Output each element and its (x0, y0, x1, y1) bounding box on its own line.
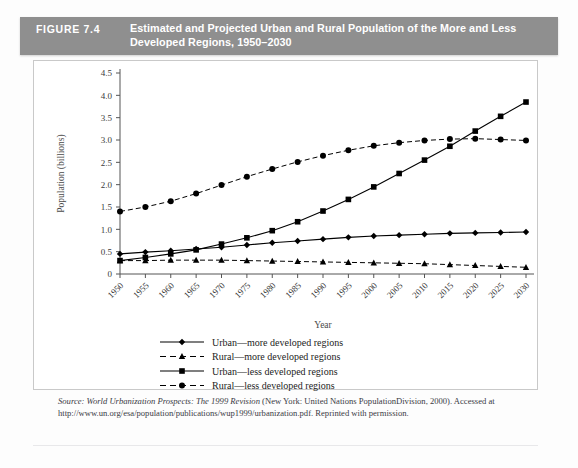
marker-diamond (421, 231, 427, 237)
marker-diamond (244, 242, 250, 248)
marker-square (269, 228, 275, 234)
marker-square (179, 368, 185, 374)
y-tick-label: 0 (108, 269, 113, 279)
x-tick-label: 1960 (156, 280, 176, 300)
marker-square (244, 235, 250, 241)
figure-number: FIGURE 7.4 (20, 17, 130, 35)
x-tick-label: 1985 (283, 280, 303, 300)
marker-square (219, 241, 225, 247)
marker-circle (244, 174, 250, 180)
x-tick-label: 1990 (309, 280, 329, 300)
y-tick-label: 2.0 (101, 180, 113, 190)
marker-diamond (345, 234, 351, 240)
marker-diamond (320, 236, 326, 242)
source-note: Source: World Urbanization Prospects: Th… (58, 396, 520, 419)
figure-title-line-1: Estimated and Projected Urban and Rural … (130, 22, 516, 34)
marker-circle (219, 182, 225, 188)
marker-circle (345, 147, 351, 153)
marker-diamond (294, 238, 300, 244)
y-tick-label: 4.0 (101, 91, 113, 101)
marker-circle (422, 137, 428, 143)
chart-frame: 00.51.01.52.02.53.03.54.04.5Population (… (33, 60, 538, 390)
marker-diamond (142, 249, 148, 255)
marker-circle (142, 204, 148, 210)
marker-circle (168, 198, 174, 204)
y-tick-label: 2.5 (101, 158, 113, 168)
marker-square (523, 99, 529, 105)
marker-circle (117, 208, 123, 214)
marker-square (498, 114, 504, 120)
x-tick-label: 1950 (106, 280, 126, 300)
marker-circle (371, 143, 377, 149)
y-tick-label: 3.0 (101, 135, 113, 145)
y-tick-label: 3.5 (101, 113, 113, 123)
marker-square (320, 208, 326, 214)
x-tick-label: 2000 (359, 280, 379, 300)
marker-circle (193, 191, 199, 197)
figure-page: FIGURE 7.4 Estimated and Projected Urban… (0, 0, 578, 468)
marker-diamond (396, 232, 402, 238)
marker-diamond (447, 230, 453, 236)
x-tick-label: 2010 (410, 280, 430, 300)
legend-label: Rural—less developed regions (212, 380, 335, 391)
legend-label: Rural—more developed regions (212, 351, 340, 362)
legend-item-3: Urban—less developed regions (160, 366, 338, 377)
marker-square (295, 219, 301, 225)
marker-circle (269, 166, 275, 172)
x-tick-label: 1955 (131, 280, 151, 300)
source-prefix: Source: (58, 396, 84, 406)
marker-diamond (497, 229, 503, 235)
x-tick-label: 1970 (207, 280, 227, 300)
series-line (120, 139, 526, 212)
line-chart: 00.51.01.52.02.53.03.54.04.5Population (… (34, 61, 539, 391)
x-axis-label: Year (314, 320, 332, 330)
x-tick-label: 2025 (486, 280, 506, 300)
y-axis-label: Population (billions) (56, 134, 67, 212)
y-tick-label: 0.5 (101, 247, 113, 257)
y-tick-label: 4.5 (101, 68, 113, 78)
marker-circle (523, 137, 529, 143)
marker-circle (472, 136, 478, 142)
marker-square (447, 143, 453, 149)
marker-diamond (523, 229, 529, 235)
marker-circle (320, 153, 326, 159)
x-tick-label: 1965 (182, 280, 202, 300)
marker-diamond (179, 339, 185, 345)
figure-title: Estimated and Projected Urban and Rural … (130, 17, 526, 49)
x-tick-label: 1995 (334, 280, 354, 300)
legend-label: Urban—less developed regions (212, 366, 338, 377)
x-tick-label: 2030 (512, 280, 532, 300)
bottom-divider (33, 445, 538, 446)
marker-diamond (472, 230, 478, 236)
figure-banner: FIGURE 7.4 Estimated and Projected Urban… (20, 17, 558, 55)
marker-square (117, 258, 123, 264)
series-2 (117, 257, 529, 270)
y-tick-label: 1.5 (101, 202, 113, 212)
x-tick-label: 2015 (435, 280, 455, 300)
legend-item-4: Rural—less developed regions (160, 380, 335, 391)
marker-square (143, 255, 149, 261)
marker-square (422, 157, 428, 163)
marker-circle (179, 383, 185, 389)
x-tick-label: 2005 (385, 280, 405, 300)
legend-item-1: Urban—more developed regions (160, 337, 343, 348)
marker-square (168, 251, 174, 257)
marker-diamond (269, 240, 275, 246)
marker-square (193, 247, 199, 253)
marker-square (472, 128, 478, 134)
x-tick-label: 2020 (461, 280, 481, 300)
x-tick-label: 1980 (258, 280, 278, 300)
x-tick-label: 1975 (232, 280, 252, 300)
marker-square (371, 184, 377, 190)
marker-diamond (371, 233, 377, 239)
legend-item-2: Rural—more developed regions (160, 351, 340, 362)
series-4 (117, 136, 529, 215)
marker-circle (447, 136, 453, 142)
marker-square (396, 171, 402, 177)
figure-title-line-2: Developed Regions, 1950–2030 (130, 36, 516, 50)
marker-square (346, 197, 352, 203)
y-tick-label: 1.0 (101, 225, 113, 235)
marker-circle (396, 140, 402, 146)
marker-circle (498, 137, 504, 143)
series-line (120, 232, 526, 254)
